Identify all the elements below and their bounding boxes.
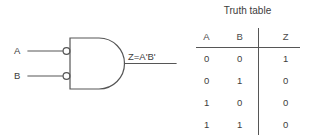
table-header-rule <box>196 47 300 48</box>
cell-a: 0 <box>190 76 223 86</box>
truth-table: Truth table A B Z 0 0 1 0 1 0 1 0 0 <box>190 0 310 139</box>
cell-a: 1 <box>190 98 223 108</box>
cell-a: 0 <box>190 54 223 64</box>
cell-a: 1 <box>190 120 223 130</box>
table-row: 1 1 0 <box>190 114 305 136</box>
cell-z: 0 <box>266 76 305 86</box>
cell-z: 0 <box>266 98 305 108</box>
input-b-label: B <box>14 71 20 81</box>
cell-b: 0 <box>223 54 256 64</box>
cell-b: 1 <box>223 120 256 130</box>
truth-table-title: Truth table <box>190 6 305 16</box>
column-header-a: A <box>190 32 223 42</box>
output-expression-label: Z=A'B' <box>128 52 156 62</box>
column-header-b: B <box>223 32 256 42</box>
table-row: 0 0 1 <box>190 48 305 70</box>
logic-gate-diagram: A B Z=A'B' <box>0 0 185 139</box>
table-row: 1 0 0 <box>190 92 305 114</box>
table-column-divider <box>258 28 259 135</box>
cell-b: 1 <box>223 76 256 86</box>
input-a-label: A <box>14 46 20 56</box>
truth-table-grid: A B Z 0 0 1 0 1 0 1 0 0 1 1 <box>190 26 305 136</box>
cell-b: 0 <box>223 98 256 108</box>
inverter-bubble-b-icon <box>63 73 70 80</box>
table-header-row: A B Z <box>190 26 305 48</box>
logic-gate-truth-table-figure: A B Z=A'B' Truth table A B Z 0 0 1 0 1 0 <box>0 0 310 139</box>
cell-z: 1 <box>266 54 305 64</box>
column-header-z: Z <box>266 32 305 42</box>
gate-schematic-svg <box>0 0 185 139</box>
cell-z: 0 <box>266 120 305 130</box>
and-gate-body <box>70 38 125 89</box>
table-row: 0 1 0 <box>190 70 305 92</box>
inverter-bubble-a-icon <box>63 48 70 55</box>
